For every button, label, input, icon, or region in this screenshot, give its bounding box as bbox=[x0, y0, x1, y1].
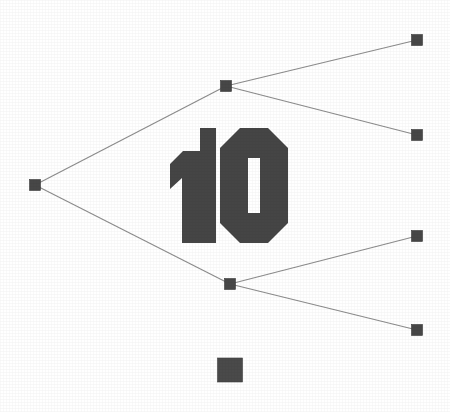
node-upper-branch[interactable] bbox=[221, 81, 232, 92]
diagram-canvas: 10 bbox=[0, 0, 450, 412]
node-leaf-2[interactable] bbox=[412, 130, 423, 141]
numeral-digit-zero bbox=[220, 128, 288, 243]
numeral-10-label bbox=[170, 128, 288, 243]
edge-lower-branch-to-leaf-4 bbox=[230, 284, 417, 330]
edge-lower-branch-to-leaf-3 bbox=[230, 236, 417, 284]
edge-upper-branch-to-leaf-2 bbox=[226, 86, 417, 135]
node-leaf-3[interactable] bbox=[412, 231, 423, 242]
node-lower-branch[interactable] bbox=[225, 279, 236, 290]
edge-upper-branch-to-leaf-1 bbox=[226, 40, 417, 86]
node-leaf-4[interactable] bbox=[412, 325, 423, 336]
node-leaf-1[interactable] bbox=[412, 35, 423, 46]
numeral-digit-one bbox=[170, 128, 216, 243]
tree-diagram bbox=[0, 0, 450, 412]
node-root[interactable] bbox=[30, 180, 41, 191]
legend-swatch[interactable] bbox=[218, 358, 243, 382]
